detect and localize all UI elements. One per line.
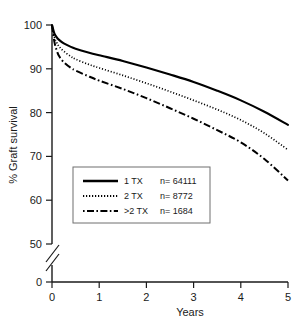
chart-background <box>0 0 308 322</box>
graft-survival-chart: 100 90 80 70 60 50 0 0 1 2 3 4 5 Years %… <box>0 0 308 322</box>
y-tick-label-90: 90 <box>30 63 42 75</box>
legend-label-2tx: 2 TX <box>124 191 143 201</box>
y-tick-label-60: 60 <box>30 194 42 206</box>
x-tick-label-0: 0 <box>49 291 55 303</box>
x-tick-label-3: 3 <box>191 291 197 303</box>
y-axis-title: % Graft survival <box>7 106 19 184</box>
x-tick-label-4: 4 <box>238 291 244 303</box>
legend-count-gt2tx: n= 1684 <box>160 206 193 216</box>
y-tick-label-80: 80 <box>30 107 42 119</box>
y-tick-label-70: 70 <box>30 150 42 162</box>
x-tick-label-5: 5 <box>285 291 291 303</box>
legend: 1 TX n= 64111 2 TX n= 8772 >2 TX n= 1684 <box>73 167 210 223</box>
legend-count-2tx: n= 8772 <box>160 191 193 201</box>
chart-svg: 100 90 80 70 60 50 0 0 1 2 3 4 5 Years %… <box>0 0 308 322</box>
x-tick-label-2: 2 <box>143 291 149 303</box>
x-axis-title: Years <box>176 306 204 318</box>
y-tick-label-100: 100 <box>24 19 42 31</box>
y-tick-label-50: 50 <box>30 238 42 250</box>
legend-label-1tx: 1 TX <box>124 176 143 186</box>
x-tick-label-1: 1 <box>96 291 102 303</box>
y-tick-label-0: 0 <box>36 276 42 288</box>
legend-label-gt2tx: >2 TX <box>124 206 148 216</box>
legend-count-1tx: n= 64111 <box>160 176 196 186</box>
